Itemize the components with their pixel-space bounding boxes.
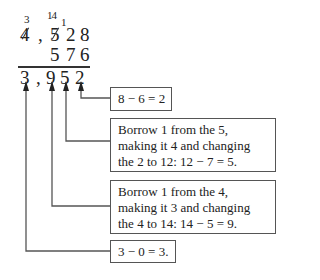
arrow-hundreds bbox=[52, 82, 110, 206]
arrow-tens bbox=[66, 82, 110, 141]
annotation-tens: Borrow 1 from the 5, making it 4 and cha… bbox=[110, 118, 276, 172]
arrow-ones bbox=[81, 82, 110, 98]
arrow-thousands bbox=[26, 82, 110, 251]
annotation-hundreds: Borrow 1 from the 4, making it 3 and cha… bbox=[110, 180, 276, 234]
annotation-thousands: 3 − 0 = 3. bbox=[110, 240, 176, 263]
annotation-ones: 8 − 6 = 2 bbox=[110, 87, 172, 111]
